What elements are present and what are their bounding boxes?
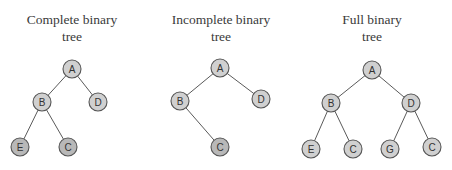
node-d: D <box>402 94 420 112</box>
edge-a-b <box>187 74 213 96</box>
node-label: C <box>428 142 435 153</box>
node-label: E <box>308 144 315 155</box>
node-label: C <box>349 144 356 155</box>
node-label: D <box>94 97 101 108</box>
node-e: E <box>11 138 29 156</box>
edge-b-c <box>335 111 349 141</box>
node-a: A <box>363 61 381 79</box>
node-d: D <box>252 90 270 108</box>
node-c: C <box>211 138 229 156</box>
node-b: B <box>171 92 189 110</box>
edge-d-c <box>415 111 428 139</box>
node-e: E <box>302 140 320 158</box>
node-label: C <box>216 142 223 153</box>
node-label: B <box>39 97 46 108</box>
edge-a-b <box>338 76 365 98</box>
edge-a-b <box>48 76 66 96</box>
node-label: D <box>257 94 264 105</box>
node-label: B <box>177 96 184 107</box>
edge-b-e <box>24 110 38 139</box>
node-label: B <box>328 98 335 109</box>
node-b: B <box>33 93 51 111</box>
node-label: D <box>407 98 414 109</box>
edge-d-g <box>394 111 408 141</box>
node-c: C <box>59 138 77 156</box>
edge-b-e <box>315 111 328 140</box>
edge-b-c <box>47 110 64 139</box>
node-label: G <box>386 144 394 155</box>
edge-a-d <box>227 73 254 93</box>
node-label: A <box>369 65 376 76</box>
node-c: C <box>344 140 362 158</box>
full-binary-tree: ABDECGC <box>302 61 441 158</box>
node-d: D <box>89 93 107 111</box>
edge-a-d <box>379 76 404 97</box>
incomplete-binary-tree: ABDC <box>171 59 270 156</box>
node-a: A <box>63 60 81 78</box>
node-label: C <box>64 142 71 153</box>
node-a: A <box>211 59 229 77</box>
node-g: G <box>381 140 399 158</box>
edge-a-d <box>78 76 93 95</box>
node-label: A <box>69 64 76 75</box>
binary-tree-diagrams: ABDEC ABDC ABDECGC <box>0 0 452 170</box>
edge-b-c <box>186 108 214 140</box>
node-b: B <box>322 94 340 112</box>
node-label: E <box>17 142 24 153</box>
complete-binary-tree: ABDEC <box>11 60 107 156</box>
node-label: A <box>217 63 224 74</box>
node-c: C <box>423 138 441 156</box>
